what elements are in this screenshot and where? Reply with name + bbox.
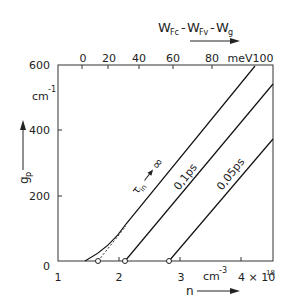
top-axis-ticks [82,65,212,69]
y-axis-title: g p [17,172,33,184]
svg-text:-: - [210,20,215,35]
curve-0.1ps [125,84,273,261]
y-unit: cm -1 [32,85,56,103]
svg-text:1: 1 [55,271,62,284]
svg-text:0: 0 [80,52,87,65]
svg-text:100: 100 [253,52,274,65]
svg-text:2: 2 [116,271,123,284]
svg-text:-3: -3 [219,266,227,275]
svg-text:20: 20 [102,52,116,65]
x-axis-ticks [119,257,241,261]
x-axis-arrow-icon [197,288,240,294]
svg-text:0: 0 [43,260,50,273]
svg-text:p: p [24,172,33,177]
curve-tau-infinity [85,66,255,261]
svg-text:meV: meV [227,52,252,65]
svg-text:Fv: Fv [199,28,209,37]
curve-tau-infinity-dashed [98,226,126,261]
svg-text:-1: -1 [48,85,56,94]
y-axis-arrow-icon [20,120,26,170]
svg-text:400: 400 [29,124,50,137]
svg-text:40: 40 [132,52,146,65]
top-axis-tick-labels: 0 20 40 60 80 meV 100 [80,52,274,65]
x-unit: cm -3 [203,266,227,283]
svg-text:g: g [228,28,233,37]
svg-text:n: n [186,284,194,298]
svg-text:3: 3 [178,271,185,284]
svg-text:∞: ∞ [148,154,166,172]
svg-text:60: 60 [166,52,180,65]
gain-chart: W Fc - W Fv - W g 0 20 40 60 80 meV 100 … [0,0,287,307]
top-axis-arrow-icon [190,38,240,44]
svg-text:-: - [181,20,186,35]
svg-text:Fc: Fc [170,28,179,37]
top-axis-title: W Fc - W Fv - W g [158,20,233,37]
svg-text:200: 200 [29,190,50,203]
svg-text:80: 80 [205,52,219,65]
x-scale-label: 4 × 10 18 [238,269,275,284]
x-axis-tick-labels: 1 2 3 [55,271,185,284]
svg-text:600: 600 [29,59,50,72]
svg-text:cm: cm [32,90,49,103]
label-tau-infinity: τ in ∞ [128,154,167,198]
y-axis-ticks [58,130,62,196]
x-axis-title: n [186,284,194,298]
curve-0.05ps [169,139,273,261]
svg-text:18: 18 [266,269,275,277]
svg-text:cm: cm [203,270,220,283]
